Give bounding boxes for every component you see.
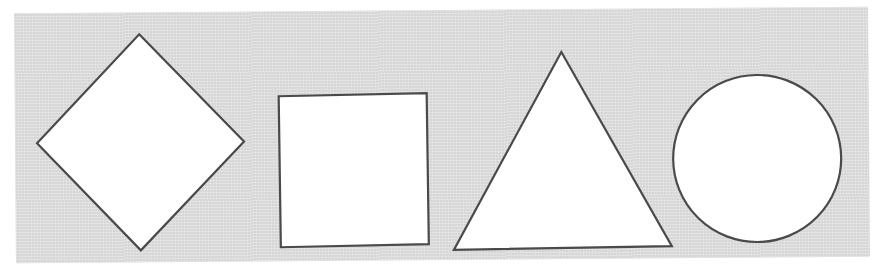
figure-root: Diamond Square Triangle Circle — [0, 0, 876, 274]
shapes-group — [36, 29, 842, 253]
shapes-canvas — [0, 0, 876, 274]
circle-shape — [673, 74, 842, 242]
triangle-shape — [452, 51, 672, 250]
square-shape — [279, 93, 429, 247]
diamond-shape — [36, 34, 245, 252]
